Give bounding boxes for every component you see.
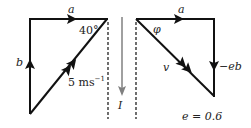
label-impulse: I	[117, 99, 123, 112]
velocity-v-line	[136, 19, 214, 96]
label-b: b	[16, 56, 23, 69]
label-restitution: e = 0.6	[182, 110, 222, 123]
left-velocity-triangle: a b 40° 5 ms−1	[16, 3, 108, 114]
impulse-arrow: I	[117, 17, 126, 112]
label-phi: φ	[153, 23, 161, 36]
label-a-right: a	[178, 3, 185, 16]
label-minus-eb: −eb	[219, 60, 242, 73]
label-a-left: a	[68, 3, 75, 16]
label-speed: 5 ms−1	[68, 75, 105, 89]
label-v: v	[163, 61, 170, 74]
right-velocity-triangle: a φ v −eb	[136, 3, 242, 97]
diagram-svg: a b 40° 5 ms−1 I a φ v	[0, 0, 251, 128]
label-angle-40: 40°	[79, 24, 99, 37]
velocity-triangle-diagram: a b 40° 5 ms−1 I a φ v	[0, 0, 251, 128]
